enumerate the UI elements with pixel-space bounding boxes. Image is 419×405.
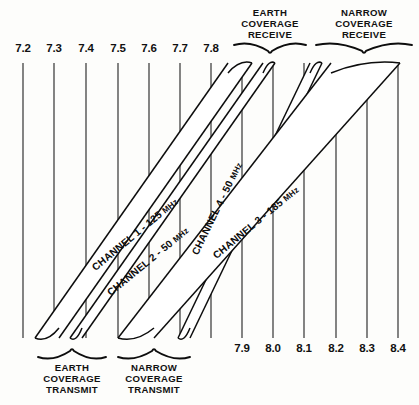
narrow-coverage-receive-line-1: COVERAGE — [335, 18, 393, 29]
tick-label-bottom-0: 7.9 — [234, 342, 249, 354]
earth-coverage-receive-line-0: EARTH — [253, 7, 288, 18]
tick-label-top-2: 7.4 — [78, 42, 94, 54]
narrow-coverage-receive-line-2: RECEIVE — [342, 29, 387, 40]
tick-label-bottom-1: 8.0 — [265, 342, 280, 354]
tick-label-top-0: 7.2 — [15, 42, 30, 54]
earth-coverage-transmit-line-1: COVERAGE — [43, 373, 101, 384]
narrow-coverage-receive-line-0: NARROW — [341, 7, 388, 18]
narrow-coverage-transmit-brace — [118, 349, 190, 358]
earth-coverage-receive-line-2: RECEIVE — [248, 29, 293, 40]
frequency-allocation-diagram: 7.27.37.47.57.67.77.8 7.98.08.18.28.38.4… — [0, 0, 419, 405]
tick-label-bottom-3: 8.2 — [328, 342, 343, 354]
tick-label-bottom-5: 8.4 — [390, 342, 406, 354]
tick-label-top-3: 7.5 — [110, 42, 126, 54]
earth-coverage-transmit-line-0: EARTH — [55, 362, 90, 373]
earth-coverage-transmit-brace — [38, 349, 106, 358]
tick-label-bottom-2: 8.1 — [296, 342, 312, 354]
narrow-coverage-transmit-line-2: TRANSMIT — [128, 384, 180, 395]
earth-coverage-receive-line-1: COVERAGE — [241, 18, 299, 29]
tick-label-top-1: 7.3 — [46, 42, 61, 54]
narrow-coverage-transmit-line-1: COVERAGE — [125, 373, 183, 384]
narrow-coverage-transmit-line-0: NARROW — [131, 362, 178, 373]
channel-2-label-unit: MHz — [171, 226, 190, 244]
tick-label-top-5: 7.7 — [172, 42, 187, 54]
earth-coverage-receive-brace — [234, 43, 306, 52]
tick-label-bottom-4: 8.3 — [359, 342, 374, 354]
earth-coverage-transmit-line-2: TRANSMIT — [46, 384, 98, 395]
narrow-coverage-receive-brace — [316, 43, 412, 52]
channel-bands: CHANNEL 1 - 125 MHzCHANNEL 2 - 50 MHzCHA… — [35, 62, 400, 339]
diagram-canvas: 7.27.37.47.57.67.77.8 7.98.08.18.28.38.4… — [0, 0, 419, 405]
tick-label-top-6: 7.8 — [203, 42, 219, 54]
tick-label-top-4: 7.6 — [141, 42, 156, 54]
channel-3-band — [118, 62, 400, 339]
channel-3-fill — [118, 63, 400, 338]
